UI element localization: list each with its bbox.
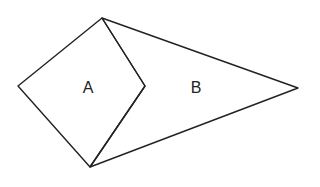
geometry-diagram: A B: [0, 0, 320, 187]
region-b-label: B: [191, 79, 202, 96]
region-a-label: A: [83, 79, 94, 96]
region-a-shape: [18, 18, 145, 167]
